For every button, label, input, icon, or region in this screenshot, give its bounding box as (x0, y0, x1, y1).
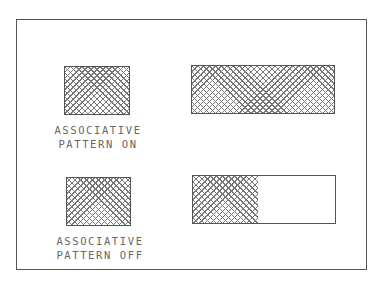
label-associative-on: ASSOCIATIVE PATTERN ON (52, 123, 144, 151)
label-line-2: PATTERN OFF (52, 248, 148, 262)
original-hatched-rect-on (64, 66, 130, 115)
stretched-hatched-rect-on (191, 65, 335, 114)
crosshatch-pattern (65, 67, 129, 114)
original-hatched-rect-off (66, 177, 131, 226)
crosshatch-pattern (67, 178, 130, 225)
crosshatch-pattern (192, 66, 334, 113)
label-line-1: ASSOCIATIVE (52, 123, 144, 137)
stretched-rect-off (192, 175, 336, 224)
label-associative-off: ASSOCIATIVE PATTERN OFF (52, 234, 148, 262)
label-line-2: PATTERN ON (52, 137, 144, 151)
crosshatch-pattern-partial (193, 176, 258, 223)
label-line-1: ASSOCIATIVE (52, 234, 148, 248)
